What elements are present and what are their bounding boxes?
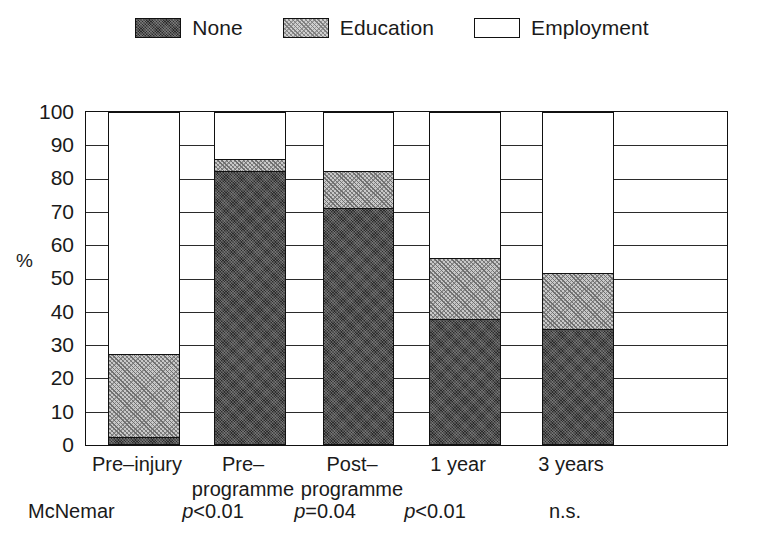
x-label-line1: Pre–: [222, 453, 264, 475]
stat-pre-to-post-programme: p=0.04: [265, 500, 385, 523]
x-label-line1: Post–: [326, 453, 377, 475]
x-label-3-years: 3 years: [491, 452, 651, 477]
legend-item-employment: Employment: [474, 16, 649, 40]
y-tick-40: 40: [18, 301, 74, 322]
y-tick-90: 90: [18, 134, 74, 155]
x-label-line2: programme: [272, 477, 432, 502]
stat-pre-injury-to-pre-programme: p<0.01: [153, 500, 273, 523]
segment-education: [324, 171, 393, 208]
segment-education: [109, 354, 179, 437]
segment-education: [543, 273, 613, 330]
segment-employment: [430, 112, 500, 258]
chart-legend: None Education Employment: [0, 16, 784, 40]
legend-item-education: Education: [283, 16, 434, 40]
bar-3-years[interactable]: [542, 112, 614, 445]
y-tick-100: 100: [18, 101, 74, 122]
segment-none: [324, 208, 393, 444]
bar-pre-injury[interactable]: [108, 112, 180, 445]
mcnemar-stats-row: McNemar p<0.01 p=0.04 p<0.01 n.s.: [0, 500, 784, 530]
y-tick-20: 20: [18, 367, 74, 388]
legend-swatch-none-icon: [135, 18, 181, 38]
bar-1-year[interactable]: [429, 112, 501, 445]
y-tick-80: 80: [18, 167, 74, 188]
x-label-line1: 3 years: [538, 453, 604, 475]
bar-pre-programme[interactable]: [214, 112, 286, 445]
stat-1-year-to-3-years: n.s.: [505, 500, 625, 523]
legend-item-none: None: [135, 16, 243, 40]
legend-label-education: Education: [340, 16, 434, 40]
segment-employment: [324, 112, 393, 171]
legend-label-employment: Employment: [531, 16, 649, 40]
segment-education: [215, 159, 285, 171]
x-label-line1: 1 year: [430, 453, 486, 475]
legend-label-none: None: [192, 16, 243, 40]
y-tick-30: 30: [18, 334, 74, 355]
plot-area: [85, 111, 728, 446]
y-tick-70: 70: [18, 201, 74, 222]
segment-none: [109, 437, 179, 444]
segment-none: [543, 329, 613, 444]
bar-post-programme[interactable]: [323, 112, 394, 445]
segment-none: [430, 319, 500, 444]
segment-education: [430, 258, 500, 320]
segment-employment: [215, 112, 285, 159]
legend-swatch-employment-icon: [474, 18, 520, 38]
legend-swatch-education-icon: [283, 18, 329, 38]
stat-post-programme-to-1-year: p<0.01: [375, 500, 495, 523]
mcnemar-label: McNemar: [28, 500, 115, 523]
y-tick-10: 10: [18, 401, 74, 422]
segment-employment: [543, 112, 613, 273]
y-axis-label: %: [16, 250, 33, 272]
segment-employment: [109, 112, 179, 354]
segment-none: [215, 171, 285, 444]
